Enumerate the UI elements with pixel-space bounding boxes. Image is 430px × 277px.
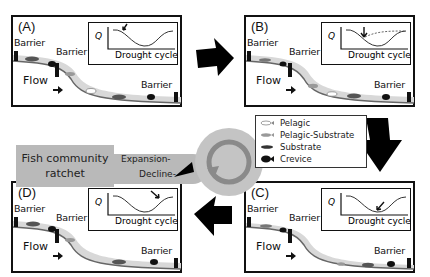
- crevice-fish-icon: [48, 61, 56, 67]
- flow-arrow-icon: [53, 252, 63, 260]
- panel-c: (C) Barrier Barrier Barrier Flow Q Droug…: [244, 181, 415, 273]
- pelagic-substrate-fish-icon: [337, 262, 345, 266]
- substrate-fish-icon: [112, 260, 126, 265]
- legend: Pelagic Pelagic-Substrate Substrate Crev…: [255, 115, 367, 168]
- barrier-label: Barrier: [289, 212, 320, 223]
- time-arrow-icon: [151, 191, 159, 198]
- substrate-fish-icon: [260, 143, 274, 151]
- substrate-fish-icon: [347, 94, 361, 99]
- legend-item-pelagic-substrate: Pelagic-Substrate: [260, 129, 354, 141]
- barrier-icon: [288, 229, 292, 243]
- legend-item-substrate: Substrate: [260, 141, 321, 153]
- barrier-label: Barrier: [14, 37, 45, 48]
- time-arrow-icon: [377, 202, 384, 210]
- decline-label: Decline-: [139, 169, 176, 179]
- panel-label: (B): [251, 19, 268, 34]
- fish-community-ratchet-box: Fish community ratchet: [16, 145, 114, 187]
- flow-arrow-icon: [53, 86, 63, 94]
- legend-item-crevice: Crevice: [260, 153, 312, 165]
- x-axis-label: Drought cycle: [348, 50, 411, 60]
- arrow-a-to-b-icon: [196, 38, 236, 78]
- panel-label: (A): [18, 19, 35, 34]
- barrier-label: Barrier: [56, 46, 87, 57]
- barrier-label: Barrier: [374, 79, 405, 90]
- barrier-icon: [55, 229, 59, 243]
- discharge-inset: Q Drought cycle: [88, 188, 178, 231]
- barrier-icon: [247, 51, 251, 61]
- substrate-fish-icon: [112, 95, 126, 100]
- pelagic-substrate-fish-icon: [308, 84, 318, 88]
- time-arrow-icon: [361, 27, 367, 37]
- flow-label: Flow: [256, 74, 281, 87]
- discharge-inset: Q Drought cycle: [88, 22, 178, 65]
- pelagic-substrate-fish-icon: [260, 224, 272, 228]
- substrate-fish-icon: [362, 263, 374, 268]
- pelagic-substrate-fish-icon: [65, 72, 75, 76]
- pelagic-substrate-fish-icon: [260, 131, 274, 139]
- flow-arrow-icon: [286, 86, 296, 94]
- ratchet-title-line1: Fish community: [22, 151, 109, 166]
- barrier-label: Barrier: [14, 203, 45, 214]
- barrier-label: Barrier: [247, 203, 278, 214]
- pelagic-substrate-fish-icon: [65, 238, 75, 242]
- barrier-label: Barrier: [247, 37, 278, 48]
- panel-b: (B) Barrier Barrier Barrier Flow Q Droug…: [244, 15, 415, 107]
- flow-label: Flow: [23, 240, 48, 253]
- expansion-label: Expansion-: [121, 154, 171, 164]
- x-axis-label: Drought cycle: [115, 50, 178, 60]
- barrier-label: Barrier: [374, 245, 405, 256]
- crevice-fish-icon: [382, 94, 390, 100]
- barrier-icon: [407, 92, 411, 102]
- discharge-inset: Q Drought cycle: [321, 22, 411, 65]
- discharge-inset: Q Drought cycle: [321, 188, 411, 231]
- substrate-fish-icon: [25, 57, 39, 62]
- barrier-icon: [174, 258, 178, 268]
- barrier-icon: [288, 63, 292, 77]
- pelagic-fish-icon: [86, 89, 96, 94]
- barrier-label: Barrier: [56, 212, 87, 223]
- arrow-c-to-d-icon: [194, 196, 234, 236]
- crevice-fish-icon: [280, 62, 287, 67]
- flow-label: Flow: [23, 74, 48, 87]
- panel-label: (D): [18, 185, 36, 200]
- barrier-label: Barrier: [289, 46, 320, 57]
- barrier-icon: [247, 217, 251, 227]
- substrate-fish-icon: [26, 222, 40, 227]
- flow-arrow-icon: [286, 252, 296, 260]
- x-axis-label: Drought cycle: [115, 216, 178, 226]
- crevice-fish-icon: [387, 261, 395, 267]
- barrier-label: Barrier: [141, 245, 172, 256]
- ratchet-pawl-icon: [174, 160, 196, 180]
- panel-d: (D) Barrier Barrier Barrier Flow Q Droug…: [11, 181, 182, 273]
- ratchet-title-line2: ratchet: [45, 166, 85, 181]
- barrier-icon: [407, 258, 411, 268]
- crevice-fish-icon: [48, 226, 56, 232]
- legend-item-pelagic: Pelagic: [260, 117, 310, 129]
- pelagic-substrate-fish-icon: [259, 58, 271, 62]
- barrier-icon: [174, 92, 178, 102]
- barrier-icon: [14, 51, 18, 61]
- flow-label: Flow: [256, 240, 281, 253]
- crevice-fish-icon: [150, 259, 158, 265]
- crevice-fish-icon: [260, 154, 274, 164]
- time-arrow-icon: [123, 24, 127, 30]
- panel-a: (A) Barrier Barrier Barrier Flow Q Droug…: [11, 15, 182, 107]
- pelagic-fish-icon: [260, 119, 274, 127]
- x-axis-label: Drought cycle: [348, 216, 411, 226]
- barrier-icon: [14, 217, 18, 227]
- crevice-fish-icon: [147, 94, 155, 100]
- barrier-label: Barrier: [141, 79, 172, 90]
- pelagic-fish-icon: [327, 92, 337, 96]
- crevice-fish-icon: [280, 228, 287, 233]
